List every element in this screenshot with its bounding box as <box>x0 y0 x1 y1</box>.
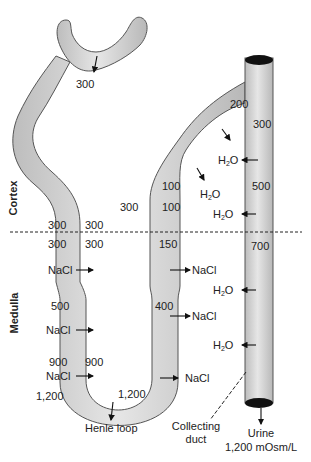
nacl-label-descending-1: NaCl <box>48 264 72 276</box>
osm-border-left-inside-below: 300 <box>85 238 103 250</box>
zone-label-cortex: Cortex <box>7 181 19 216</box>
caption-collecting-duct-line1: Collecting <box>166 420 226 432</box>
h2o-label-duct-4: H2O <box>213 339 233 355</box>
caption-henle-loop: Henle loop <box>85 422 138 434</box>
nephron-diagram: Cortex Medulla 300 200 300 300 100 100 5… <box>0 0 311 462</box>
bowman-capsule <box>57 17 147 71</box>
zone-label-medulla: Medulla <box>8 293 20 334</box>
osm-duct-top: 300 <box>253 118 271 130</box>
osm-distal-top: 200 <box>230 98 248 110</box>
osm-border-left-outside-below: 300 <box>48 238 66 250</box>
osm-glomerulus: 300 <box>76 78 94 90</box>
osm-ascending-lower: 400 <box>155 300 173 312</box>
nacl-label-ascending-2: NaCl <box>192 310 216 322</box>
nacl-label-descending-2: NaCl <box>46 324 70 336</box>
osm-border-left-outside-above: 300 <box>48 219 66 231</box>
osm-papilla-outside: 1,200 <box>36 390 64 402</box>
osm-ascending-upper-1: 100 <box>162 180 180 192</box>
caption-urine-osmolality: 1,200 mOsm/L <box>216 441 306 453</box>
h2o-label-duct-3: H2O <box>213 284 233 300</box>
collecting-duct-leader-line <box>210 372 246 420</box>
h2o-label-distal: H2O <box>200 188 220 204</box>
nacl-label-descending-3: NaCl <box>46 370 70 382</box>
osm-descending-deep: 900 <box>85 356 103 368</box>
osm-ascending-border: 150 <box>159 238 177 250</box>
osm-medulla-outer: 500 <box>51 300 69 312</box>
osm-ascending-upper-2: 100 <box>162 201 180 213</box>
nacl-label-loop-bottom: NaCl <box>185 372 209 384</box>
caption-urine: Urine <box>226 427 296 439</box>
h2o-label-duct-2: H2O <box>213 208 233 224</box>
h2o-label-duct-1: H2O <box>218 154 238 170</box>
osm-medulla-deep-outside: 900 <box>49 356 67 368</box>
osm-cortex-interstitium: 300 <box>120 201 138 213</box>
collecting-duct <box>245 55 273 408</box>
osm-loop-tip: 1,200 <box>118 388 146 400</box>
nacl-label-ascending-1: NaCl <box>192 264 216 276</box>
osm-duct-cortex: 500 <box>252 180 270 192</box>
osm-border-left-inside-above: 300 <box>85 219 103 231</box>
osm-duct-border: 700 <box>251 240 269 252</box>
